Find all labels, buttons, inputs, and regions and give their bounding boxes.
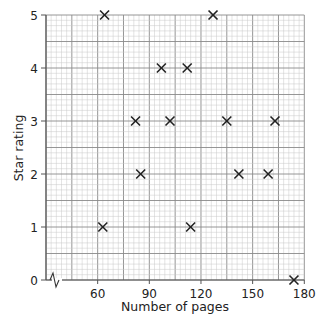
y-tick-labels: 012345: [30, 9, 46, 288]
x-tick-label: 180: [293, 287, 316, 301]
x-tick-label: 60: [90, 287, 105, 301]
y-tick-label: 1: [30, 221, 38, 235]
y-tick-label: 5: [30, 9, 38, 23]
scatter-chart: 012345 6090120150180 Number of pages Sta…: [0, 0, 331, 325]
y-axis-title: Star rating: [11, 115, 26, 182]
grid: [46, 15, 304, 280]
y-tick-label: 3: [30, 115, 38, 129]
y-tick-label: 2: [30, 168, 38, 182]
x-axis-title: Number of pages: [121, 299, 229, 314]
y-tick-label: 4: [30, 62, 38, 76]
x-tick-labels: 6090120150180: [90, 280, 316, 301]
x-tick-label: 150: [241, 287, 264, 301]
y-tick-label: 0: [30, 274, 38, 288]
